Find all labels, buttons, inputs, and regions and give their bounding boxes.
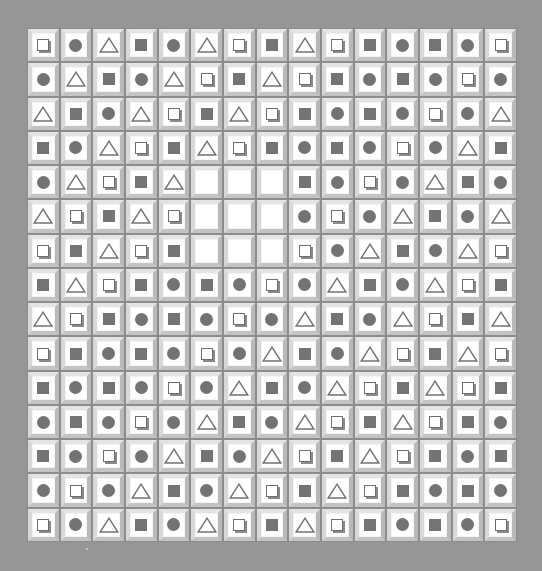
- board-tile[interactable]: [453, 235, 484, 267]
- board-tile[interactable]: [387, 132, 418, 164]
- board-tile[interactable]: [485, 337, 516, 369]
- board-tile[interactable]: [420, 440, 451, 472]
- board-tile[interactable]: [387, 440, 418, 472]
- board-tile[interactable]: [453, 337, 484, 369]
- board-tile[interactable]: [420, 132, 451, 164]
- board-tile[interactable]: [355, 235, 386, 267]
- board-tile[interactable]: [126, 440, 157, 472]
- board-tile[interactable]: [61, 337, 92, 369]
- board-tile[interactable]: [61, 132, 92, 164]
- board-tile[interactable]: [224, 63, 255, 95]
- board-tile[interactable]: [159, 509, 190, 541]
- board-tile[interactable]: [61, 372, 92, 404]
- board-tile[interactable]: [485, 235, 516, 267]
- board-tile[interactable]: [159, 474, 190, 506]
- board-tile[interactable]: [61, 63, 92, 95]
- board-tile[interactable]: [93, 474, 124, 506]
- board-tile[interactable]: [355, 29, 386, 61]
- board-tile[interactable]: [387, 337, 418, 369]
- board-tile[interactable]: [224, 440, 255, 472]
- board-tile[interactable]: [126, 509, 157, 541]
- board-tile[interactable]: [191, 509, 222, 541]
- board-tile[interactable]: [355, 337, 386, 369]
- board-tile[interactable]: [126, 132, 157, 164]
- board-tile[interactable]: [93, 166, 124, 198]
- board-tile[interactable]: [322, 200, 353, 232]
- board-tile[interactable]: [191, 269, 222, 301]
- board-tile[interactable]: [191, 337, 222, 369]
- board-tile[interactable]: [191, 440, 222, 472]
- board-tile[interactable]: [355, 269, 386, 301]
- board-tile[interactable]: [61, 98, 92, 130]
- board-tile[interactable]: [322, 372, 353, 404]
- board-tile[interactable]: [355, 474, 386, 506]
- board-tile[interactable]: [485, 98, 516, 130]
- board-tile[interactable]: [453, 269, 484, 301]
- board-tile[interactable]: [485, 509, 516, 541]
- board-tile[interactable]: [322, 509, 353, 541]
- board-tile[interactable]: [485, 474, 516, 506]
- board-tile[interactable]: [387, 63, 418, 95]
- board-tile[interactable]: [93, 29, 124, 61]
- board-tile[interactable]: [191, 303, 222, 335]
- board-tile[interactable]: [257, 63, 288, 95]
- board-tile[interactable]: [322, 337, 353, 369]
- board-tile[interactable]: [126, 337, 157, 369]
- board-tile[interactable]: [322, 132, 353, 164]
- board-tile[interactable]: [387, 406, 418, 438]
- board-tile[interactable]: [387, 269, 418, 301]
- board-tile[interactable]: [159, 372, 190, 404]
- board-tile[interactable]: [61, 509, 92, 541]
- board-tile[interactable]: [289, 200, 320, 232]
- board-tile[interactable]: [159, 166, 190, 198]
- board-tile[interactable]: [126, 269, 157, 301]
- board-tile[interactable]: [289, 29, 320, 61]
- board-tile[interactable]: [61, 166, 92, 198]
- board-tile[interactable]: [322, 303, 353, 335]
- board-tile[interactable]: [387, 29, 418, 61]
- board-tile[interactable]: [420, 337, 451, 369]
- board-tile[interactable]: [61, 406, 92, 438]
- board-tile[interactable]: [355, 132, 386, 164]
- board-tile[interactable]: [289, 406, 320, 438]
- board-tile[interactable]: [257, 440, 288, 472]
- board-tile[interactable]: [355, 509, 386, 541]
- board-tile[interactable]: [355, 406, 386, 438]
- board-tile[interactable]: [289, 474, 320, 506]
- board-tile[interactable]: [420, 474, 451, 506]
- board-tile[interactable]: [224, 200, 255, 232]
- board-tile[interactable]: [485, 29, 516, 61]
- board-tile[interactable]: [191, 98, 222, 130]
- board-tile[interactable]: [257, 132, 288, 164]
- board-tile[interactable]: [93, 509, 124, 541]
- board-tile[interactable]: [93, 406, 124, 438]
- board-tile[interactable]: [420, 29, 451, 61]
- board-tile[interactable]: [159, 269, 190, 301]
- board-tile[interactable]: [61, 235, 92, 267]
- board-tile[interactable]: [93, 269, 124, 301]
- board-tile[interactable]: [61, 200, 92, 232]
- board-tile[interactable]: [61, 303, 92, 335]
- board-tile[interactable]: [485, 132, 516, 164]
- board-tile[interactable]: [28, 269, 59, 301]
- board-tile[interactable]: [28, 372, 59, 404]
- board-tile[interactable]: [224, 98, 255, 130]
- board-tile[interactable]: [191, 474, 222, 506]
- board-tile[interactable]: [126, 474, 157, 506]
- board-tile[interactable]: [93, 132, 124, 164]
- board-tile[interactable]: [355, 200, 386, 232]
- board-tile[interactable]: [126, 200, 157, 232]
- board-tile[interactable]: [61, 29, 92, 61]
- board-tile[interactable]: [453, 29, 484, 61]
- board-tile[interactable]: [453, 303, 484, 335]
- board-tile[interactable]: [159, 440, 190, 472]
- board-tile[interactable]: [159, 337, 190, 369]
- board-tile[interactable]: [322, 29, 353, 61]
- board-tile[interactable]: [355, 63, 386, 95]
- board-tile[interactable]: [126, 406, 157, 438]
- board-tile[interactable]: [420, 303, 451, 335]
- board-tile[interactable]: [159, 98, 190, 130]
- board-tile[interactable]: [93, 440, 124, 472]
- board-tile[interactable]: [289, 166, 320, 198]
- board-tile[interactable]: [61, 440, 92, 472]
